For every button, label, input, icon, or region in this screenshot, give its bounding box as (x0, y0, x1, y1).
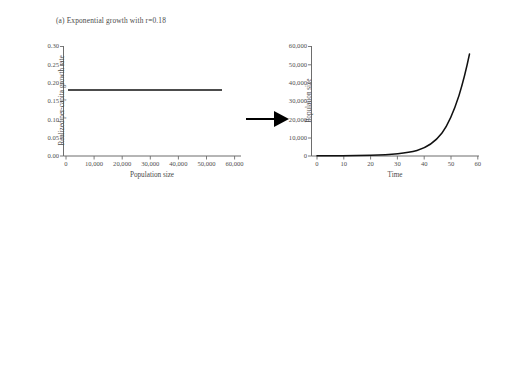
series-exponential-curve (317, 54, 470, 156)
chart-a-right-population-vs-time: 60,000 50,000 40,000 30,000 20,000 10,00… (311, 46, 479, 156)
x-tick-marks (66, 156, 235, 160)
right-arrow-icon (246, 108, 290, 130)
x-tick-label: 60,000 (226, 161, 244, 168)
y-tick-label: 50,000 (289, 62, 307, 69)
x-tick-label: 60 (475, 161, 482, 168)
axis-spines (312, 46, 480, 156)
x-tick-marks (317, 156, 478, 160)
y-tick-label: 0.20 (47, 80, 59, 87)
panel-exponential-growth: (a) Exponential growth with r=0.18 (0, 0, 512, 187)
chart-a-right-axes (311, 46, 479, 156)
y-axis-label: Realized per-capita growth rate (59, 56, 66, 146)
y-tick-label: 40,000 (289, 80, 307, 87)
panel-logistic-growth: (b) Logistic growth with r=0.18, K=500 (0, 187, 512, 374)
x-axis-label: Time (388, 171, 403, 179)
x-tick-label: 40 (421, 161, 428, 168)
x-tick-label: 20,000 (113, 161, 131, 168)
x-tick-label: 0 (64, 161, 67, 168)
x-tick-label: 10,000 (85, 161, 103, 168)
y-tick-label: 0.05 (47, 135, 59, 142)
y-tick-label: 0.00 (47, 153, 59, 160)
y-tick-label: 60,000 (289, 43, 307, 50)
x-tick-label: 30 (394, 161, 401, 168)
x-tick-label: 20 (367, 161, 374, 168)
x-tick-label: 30,000 (141, 161, 159, 168)
x-tick-label: 10 (341, 161, 348, 168)
x-tick-label: 50,000 (197, 161, 215, 168)
y-tick-label: 0.15 (47, 98, 59, 105)
y-tick-label: 10,000 (289, 135, 307, 142)
y-tick-label: 20,000 (289, 116, 307, 123)
y-tick-label: 0.10 (47, 116, 59, 123)
x-tick-label: 0 (315, 161, 318, 168)
x-tick-label: 50 (448, 161, 455, 168)
y-tick-label: 0 (304, 153, 307, 160)
y-tick-label: 0.25 (47, 62, 59, 69)
y-axis-label: Population size (306, 56, 313, 146)
y-tick-label: 30,000 (289, 98, 307, 105)
x-tick-label: 40,000 (169, 161, 187, 168)
x-axis-label: Population size (130, 171, 174, 179)
y-tick-label: 0.30 (47, 43, 59, 50)
panel-a-title: (a) Exponential growth with r=0.18 (56, 16, 166, 25)
chart-a-left-axes (63, 46, 241, 156)
axis-spines (64, 46, 242, 156)
chart-a-left-per-capita-rate: 0.30 0.25 0.20 0.15 0.10 0.05 0.00 0 10,… (63, 46, 241, 156)
